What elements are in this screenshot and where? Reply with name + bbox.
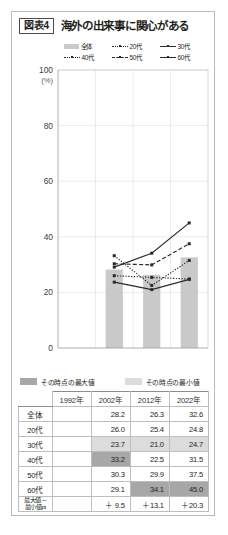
table-cell: 34.1 [130, 482, 169, 497]
minmax-legend: その時点の最大値その時点の最小値 [12, 374, 214, 389]
table-row-label: 60代 [19, 482, 53, 497]
figure-panel: 図表4 海外の出来事に関心がある 全体20代30代40代50代60代 02040… [11, 11, 215, 516]
legend-item-30代: 30代 [160, 42, 208, 51]
figure-header: 図表4 海外の出来事に関心がある [12, 12, 214, 40]
series-marker-50代 [150, 263, 153, 266]
y-tick-label: 20 [44, 287, 54, 297]
table-cell [52, 422, 91, 437]
chart-plot-area: 020406080100(%) [12, 60, 214, 370]
series-marker-40代 [150, 284, 153, 287]
y-tick-label: 40 [44, 232, 54, 242]
minmax-legend-item-min: その時点の最小値 [125, 377, 200, 387]
series-line-60代 [114, 223, 189, 267]
series-marker-30代 [113, 281, 116, 284]
minmax-legend-item-max: その時点の最大値 [20, 377, 95, 387]
table-cell [52, 407, 91, 422]
table-row: 50代30.329.937.5 [19, 467, 209, 482]
series-marker-30代 [150, 288, 153, 291]
series-marker-30代 [188, 278, 191, 281]
table-row-label: 20代 [19, 422, 53, 437]
table-cell: 23.7 [91, 437, 130, 452]
minmax-label: その時点の最大値 [41, 377, 95, 387]
table-row: 60代29.134.145.0 [19, 482, 209, 497]
table-cell: 24.7 [169, 437, 208, 452]
table-row-label: 40代 [19, 452, 53, 467]
minmax-label: その時点の最小値 [146, 377, 200, 387]
table-column-header: 2012年 [130, 392, 169, 407]
y-tick-label: 60 [44, 176, 54, 186]
table-cell: 26.3 [130, 407, 169, 422]
table-row: 20代26.025.424.8 [19, 422, 209, 437]
table-cell: 32.6 [169, 407, 208, 422]
table-cell: 31.5 [169, 452, 208, 467]
table-row-label: 30代 [19, 437, 53, 452]
table-cell [52, 452, 91, 467]
minmax-swatch [20, 378, 37, 385]
table-row-label: 最大値－最小値pt [19, 497, 53, 512]
data-table: 1992年2002年2012年2022年全体28.226.332.620代26.… [18, 391, 209, 512]
legend-item-全体: 全体 [64, 42, 112, 51]
table-corner-cell [19, 392, 53, 407]
legend-item-20代: 20代 [112, 42, 160, 51]
series-marker-20代 [113, 274, 116, 277]
legend-swatch-bar [64, 44, 79, 49]
table-row: 40代33.222.531.5 [19, 452, 209, 467]
series-marker-60代 [113, 266, 116, 269]
table-column-header: 2022年 [169, 392, 208, 407]
table-cell [52, 467, 91, 482]
table-cell: ＋ 9.5 [91, 497, 130, 512]
table-cell: ＋13.1 [130, 497, 169, 512]
table-cell: 25.4 [130, 422, 169, 437]
table-row-label: 全体 [19, 407, 53, 422]
figure-number-badge: 図表4 [19, 18, 54, 34]
table-cell: ＋20.3 [169, 497, 208, 512]
series-marker-20代 [150, 276, 153, 279]
table-cell: 29.1 [91, 482, 130, 497]
table-cell: 24.8 [169, 422, 208, 437]
legend-label: 20代 [130, 43, 142, 50]
table-cell: 45.0 [169, 482, 208, 497]
table-cell: 29.9 [130, 467, 169, 482]
table-cell: 21.0 [130, 437, 169, 452]
bar-2022年 [181, 257, 198, 348]
legend-label: 全体 [81, 43, 92, 50]
y-tick-label: 0 [48, 343, 53, 353]
series-marker-60代 [188, 221, 191, 224]
legend-line-dotted [112, 43, 128, 50]
series-marker-50代 [113, 262, 116, 265]
table-cell: 33.2 [91, 452, 130, 467]
table-row: 全体28.226.332.6 [19, 407, 209, 422]
table-cell [52, 482, 91, 497]
table-row: 最大値－最小値pt＋ 9.5＋13.1＋20.3 [19, 497, 209, 512]
page-title: 海外の出来事に関心がある [61, 20, 189, 32]
table-row-label: 50代 [19, 467, 53, 482]
y-tick-label: 80 [44, 121, 54, 131]
table-cell [52, 497, 91, 512]
table-cell: 28.2 [91, 407, 130, 422]
series-marker-50代 [188, 242, 191, 245]
table-column-header: 1992年 [52, 392, 91, 407]
table-column-header: 2002年 [91, 392, 130, 407]
legend-line-solid [160, 43, 176, 50]
series-marker-40代 [188, 259, 191, 262]
minmax-swatch [125, 378, 142, 385]
table-cell: 30.3 [91, 467, 130, 482]
table-cell [52, 437, 91, 452]
y-tick-label: 100 [39, 65, 53, 75]
table-cell: 22.5 [130, 452, 169, 467]
legend-label: 30代 [178, 43, 190, 50]
chart-svg: 020406080100(%) [12, 60, 216, 370]
table-row: 30代23.721.024.7 [19, 437, 209, 452]
table-cell: 26.0 [91, 422, 130, 437]
table-cell: 37.5 [169, 467, 208, 482]
series-marker-40代 [113, 254, 116, 257]
series-marker-60代 [150, 252, 153, 255]
y-axis-unit-label: (%) [41, 76, 53, 85]
table-header-row: 1992年2002年2012年2022年 [19, 392, 209, 407]
